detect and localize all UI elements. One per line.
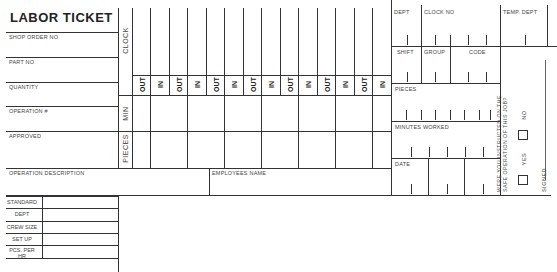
- col-header-out-3: OUT: [213, 76, 220, 94]
- signed-line[interactable]: [545, 60, 546, 180]
- group-field[interactable]: [422, 47, 450, 83]
- clock-no-field[interactable]: [422, 5, 500, 45]
- col-header-in-7: IN: [379, 76, 386, 94]
- no-checkbox[interactable]: [518, 130, 528, 140]
- approved-label: APPROVED: [9, 133, 41, 139]
- col-header-in-5: IN: [305, 76, 312, 94]
- standard-field[interactable]: [43, 196, 118, 208]
- part-no-field[interactable]: PART NO: [6, 58, 118, 81]
- col-header-in-3: IN: [231, 76, 238, 94]
- pieces-field[interactable]: [392, 84, 500, 120]
- col-header-out-1: OUT: [139, 76, 146, 94]
- operation-number-field[interactable]: OPERATION #: [6, 107, 118, 130]
- approved-field[interactable]: APPROVED: [6, 132, 118, 167]
- operation-description-field[interactable]: OPERATION DESCRIPTION: [6, 169, 209, 194]
- clock-cells[interactable]: [133, 8, 391, 75]
- crew-size-label: CREW SIZE: [2, 224, 42, 230]
- standard-label: STANDARD: [2, 199, 42, 205]
- col-header-in-1: IN: [157, 76, 164, 94]
- operation-description-label: OPERATION DESCRIPTION: [9, 170, 84, 176]
- safety-question-line2: SAFE OPERATION OF THIS JOB?: [502, 74, 508, 192]
- employees-name-field[interactable]: EMPLOYEES NAME: [210, 169, 391, 194]
- signed-label: SIGNED: [541, 165, 547, 195]
- employees-name-label: EMPLOYEES NAME: [212, 170, 266, 176]
- set-up-label: SET UP: [2, 236, 42, 242]
- col-header-out-7: OUT: [361, 76, 368, 94]
- safety-question: WERE YOU INSTRUCTED ON THE SAFE OPERATIO…: [496, 74, 508, 192]
- temp-dept-field[interactable]: [501, 5, 541, 45]
- dept-std-field[interactable]: [43, 209, 118, 221]
- shop-order-no-label: SHOP ORDER NO: [9, 34, 58, 40]
- col-header-out-2: OUT: [176, 76, 183, 94]
- col-header-out-4: OUT: [250, 76, 257, 94]
- col-header-out-6: OUT: [324, 76, 331, 94]
- col-header-in-6: IN: [342, 76, 349, 94]
- form-title: LABOR TICKET: [10, 10, 113, 25]
- part-no-label: PART NO: [9, 59, 34, 65]
- col-header-in-2: IN: [194, 76, 201, 94]
- quantity-field[interactable]: QUANTITY: [6, 83, 118, 105]
- shop-order-no-field[interactable]: SHOP ORDER NO: [6, 33, 118, 55]
- dept-std-label: DEPT: [2, 211, 42, 217]
- operation-number-label: OPERATION #: [9, 108, 48, 114]
- col-header-in-4: IN: [268, 76, 275, 94]
- quantity-label: QUANTITY: [9, 84, 38, 90]
- clock-row-label: CLOCK: [122, 23, 129, 59]
- min-cells[interactable]: [133, 96, 391, 131]
- col-header-out-5: OUT: [287, 76, 294, 94]
- pieces-cells[interactable]: [133, 132, 391, 168]
- no-label: NO: [521, 105, 527, 125]
- pcs-per-hr-field[interactable]: [43, 246, 118, 258]
- code-field[interactable]: [451, 47, 500, 83]
- yes-label: YES: [521, 147, 527, 171]
- yes-checkbox[interactable]: [518, 175, 528, 185]
